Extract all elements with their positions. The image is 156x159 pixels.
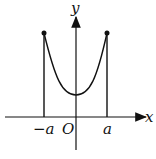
tick-label-a: a <box>103 120 112 138</box>
origin-label: O <box>62 120 74 138</box>
left-endpoint-dot <box>42 31 47 36</box>
y-axis-label: y <box>70 0 80 17</box>
function-diagram: y x O −a a <box>0 0 156 159</box>
right-endpoint-dot <box>105 31 110 36</box>
x-axis-label: x <box>145 108 154 126</box>
tick-label-neg-a: −a <box>33 120 55 138</box>
